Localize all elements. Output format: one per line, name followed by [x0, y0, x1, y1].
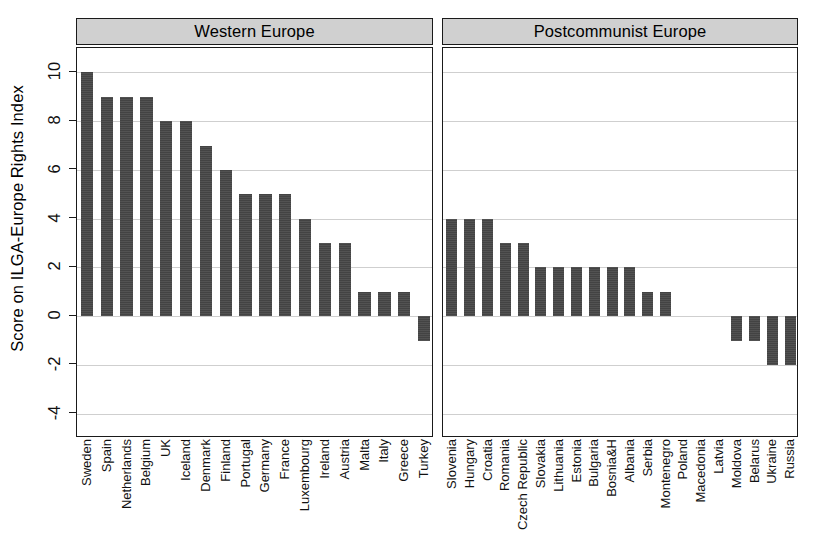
bar: [624, 267, 635, 316]
bar: [418, 316, 430, 340]
grid-line: [443, 414, 797, 415]
bar: [299, 219, 311, 317]
bar: [518, 243, 529, 316]
grid-line: [443, 365, 797, 366]
bar: [535, 267, 546, 316]
y-tick-mark: [69, 120, 76, 121]
grid-line: [443, 121, 797, 122]
figure-root: Score on ILGA-Europe Rights Index -4-202…: [0, 0, 813, 557]
panel-title: Western Europe: [76, 18, 433, 45]
bar: [160, 121, 172, 316]
bar: [731, 316, 742, 340]
bar: [446, 219, 457, 317]
bar: [749, 316, 760, 340]
bar: [200, 146, 212, 317]
bar: [279, 194, 291, 316]
bar: [140, 97, 152, 316]
bar: [259, 194, 271, 316]
bar: [589, 267, 600, 316]
y-tick-mark: [69, 315, 76, 316]
bar: [180, 121, 192, 316]
bar: [239, 194, 251, 316]
bar: [500, 243, 511, 316]
bar: [120, 97, 132, 316]
y-tick-label: 10: [42, 60, 66, 82]
bar: [553, 267, 564, 316]
bar: [398, 292, 410, 316]
grid-line: [77, 316, 432, 317]
y-tick-label: 4: [42, 207, 66, 229]
bar: [464, 219, 475, 317]
y-tick-mark: [69, 412, 76, 413]
grid-line: [443, 316, 797, 317]
bar: [642, 292, 653, 316]
y-tick-mark: [69, 71, 76, 72]
bar: [378, 292, 390, 316]
y-axis: -4-20246810: [40, 47, 76, 437]
grid-line: [443, 72, 797, 73]
bar: [767, 316, 778, 365]
bar: [358, 292, 370, 316]
plot-area: [76, 47, 433, 437]
y-tick-mark: [69, 217, 76, 218]
y-tick-mark: [69, 363, 76, 364]
bar: [81, 72, 93, 316]
x-axis-labels: SloveniaHungaryCroatiaRomaniaCzech Repub…: [442, 439, 798, 554]
bar: [607, 267, 618, 316]
grid-line: [77, 414, 432, 415]
bar: [101, 97, 113, 316]
bar: [339, 243, 351, 316]
y-axis-title: Score on ILGA-Europe Rights Index: [0, 0, 34, 437]
grid-line: [77, 365, 432, 366]
y-tick-label: 0: [42, 304, 66, 326]
y-tick-label: 2: [42, 255, 66, 277]
panel-title: Postcommunist Europe: [442, 18, 798, 45]
grid-line: [77, 72, 432, 73]
bar: [319, 243, 331, 316]
x-axis-labels: SwedenSpainNetherlandsBelgiumUKIcelandDe…: [76, 439, 433, 554]
y-tick-label: 8: [42, 109, 66, 131]
bar: [482, 219, 493, 317]
y-tick-mark: [69, 168, 76, 169]
grid-line: [443, 267, 797, 268]
y-tick-label: 6: [42, 158, 66, 180]
plot-area: [442, 47, 798, 437]
bar: [785, 316, 796, 365]
y-tick-mark: [69, 266, 76, 267]
bar: [571, 267, 582, 316]
y-tick-label: -2: [42, 353, 66, 375]
bar: [220, 170, 232, 316]
bar: [660, 292, 671, 316]
grid-line: [443, 170, 797, 171]
y-tick-label: -4: [42, 402, 66, 424]
grid-line: [443, 219, 797, 220]
